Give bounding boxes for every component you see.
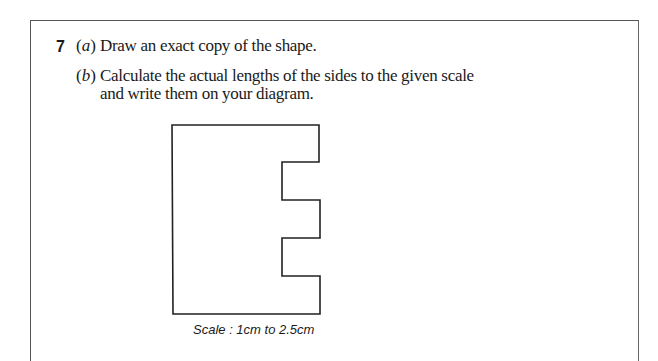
scale-caption: Scale : 1cm to 2.5cm <box>193 322 314 337</box>
